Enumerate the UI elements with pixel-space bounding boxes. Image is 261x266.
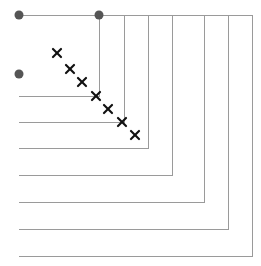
plot-svg — [0, 0, 261, 266]
plot-canvas — [0, 0, 261, 266]
circle-marker — [95, 11, 104, 20]
plot-background — [0, 0, 261, 266]
circle-marker — [15, 70, 24, 79]
circle-marker — [15, 11, 24, 20]
